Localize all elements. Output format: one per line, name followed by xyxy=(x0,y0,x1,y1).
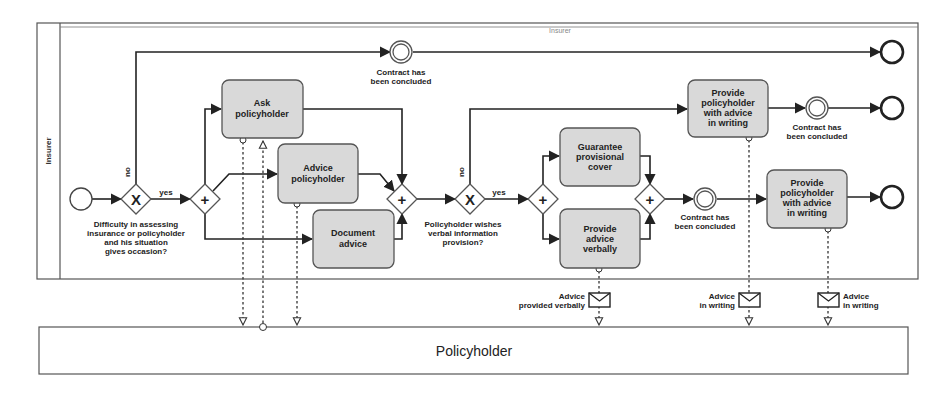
task-verbally-line2: advice xyxy=(586,234,614,244)
intermediate-event-contract2[interactable] xyxy=(806,97,828,119)
policyholder-pool: Policyholder xyxy=(39,327,908,374)
policyholder-pool-label: Policyholder xyxy=(436,343,513,359)
msg-verbal-line2: provided verbally xyxy=(519,301,586,310)
task-writing-upper-line4: in writing xyxy=(708,118,748,128)
task-provide-writing-lower[interactable]: Provide policyholder with advice in writ… xyxy=(767,170,847,228)
envelope-writing1-icon xyxy=(739,293,760,307)
and4-symbol: + xyxy=(646,191,655,208)
xor1-question-line1: Difficulty in assessing xyxy=(94,220,179,229)
msgflow-source-circle xyxy=(260,324,267,331)
xor1-question-line2: insurance or policyholder xyxy=(87,229,185,238)
and3-symbol: + xyxy=(539,191,548,208)
task-guarantee-provisional-cover[interactable]: Guarantee provisional xyxy=(560,128,640,186)
contract1-label-line1: Contract has xyxy=(377,68,426,77)
task-ask-policyholder[interactable]: Ask policyholder xyxy=(222,80,303,138)
bpmn-diagram: Insurer Insurer Policyholder xyxy=(0,0,951,401)
end-event-3[interactable] xyxy=(881,186,903,208)
task-writing-upper-line3: with advice xyxy=(703,108,753,118)
task-guarantee-line1: Guarantee xyxy=(578,142,623,152)
task-provide-writing-upper[interactable]: Provide policyholder with advice in writ… xyxy=(688,80,768,137)
xor2-no-label: no xyxy=(457,167,466,177)
task-document-line1: Document xyxy=(331,228,375,238)
xor2-symbol: X xyxy=(465,191,475,208)
intermediate-event-contract1[interactable] xyxy=(390,41,412,63)
msg-writing1-line1: Advice xyxy=(709,292,736,301)
task-verbally-line3: verbally xyxy=(583,244,617,254)
and1-symbol: + xyxy=(201,191,210,208)
task-writing-upper-line1: Provide xyxy=(711,88,744,98)
task-advice-policyholder[interactable]: Advice policyholder xyxy=(278,144,358,203)
xor1-no-label: no xyxy=(123,167,132,177)
insurer-lane-label: Insurer xyxy=(44,137,53,164)
start-event[interactable] xyxy=(70,188,92,210)
msg-writing1-line2: in writing xyxy=(699,301,735,310)
envelope-verbal-icon xyxy=(589,293,610,307)
and2-symbol: + xyxy=(398,191,407,208)
intermediate-event-contract3[interactable] xyxy=(694,188,716,210)
task-advice-line2: policyholder xyxy=(291,174,345,184)
contract2-label-line2: been concluded xyxy=(787,132,848,141)
xor2-question-line2: verbal information xyxy=(428,229,498,238)
msg-verbal-line1: Advice xyxy=(559,292,586,301)
task-writing-upper-line2: policyholder xyxy=(701,98,755,108)
msg-writing2-line2: in writing xyxy=(843,301,879,310)
xor2-yes-label: yes xyxy=(492,188,506,197)
contract2-label-line1: Contract has xyxy=(793,123,842,132)
msg-writing2-line1: Advice xyxy=(843,292,870,301)
insurer-header-label: Insurer xyxy=(549,27,571,34)
task-ask-line2: policyholder xyxy=(235,109,289,119)
contract3-label-line2: been concluded xyxy=(675,222,736,231)
xor1-question-line3: and his situation xyxy=(104,238,168,247)
task-ask-line1: Ask xyxy=(254,98,272,108)
task-provide-advice-verbally[interactable]: Provide advice verbally xyxy=(560,209,640,268)
task-writing-lower-line3: with advice xyxy=(782,198,832,208)
xor1-symbol: X xyxy=(131,191,141,208)
xor2-question-line3: provision? xyxy=(443,238,484,247)
task-advice-line1: Advice xyxy=(303,163,333,173)
envelope-writing2-icon xyxy=(818,293,839,307)
task-guarantee-line2: provisional xyxy=(576,152,624,162)
xor2-question-line1: Policyholder wishes xyxy=(425,220,502,229)
task-document-line2: advice xyxy=(339,239,367,249)
task-writing-lower-line1: Provide xyxy=(790,178,823,188)
task-document-advice[interactable]: Document advice xyxy=(313,210,394,268)
contract3-label-line1: Contract has xyxy=(681,213,730,222)
message-envelopes: Advice provided verbally Advice in writi… xyxy=(519,292,879,310)
end-event-2[interactable] xyxy=(881,97,903,119)
task-writing-lower-line4: in writing xyxy=(787,208,827,218)
contract1-label-line2: been concluded xyxy=(371,77,432,86)
task-verbally-line1: Provide xyxy=(583,224,616,234)
xor1-yes-label: yes xyxy=(159,188,173,197)
xor1-question-line4: gives occasion? xyxy=(105,247,167,256)
end-event-1[interactable] xyxy=(881,41,903,63)
task-writing-lower-line2: policyholder xyxy=(780,188,834,198)
task-guarantee-line3: cover xyxy=(588,162,613,172)
